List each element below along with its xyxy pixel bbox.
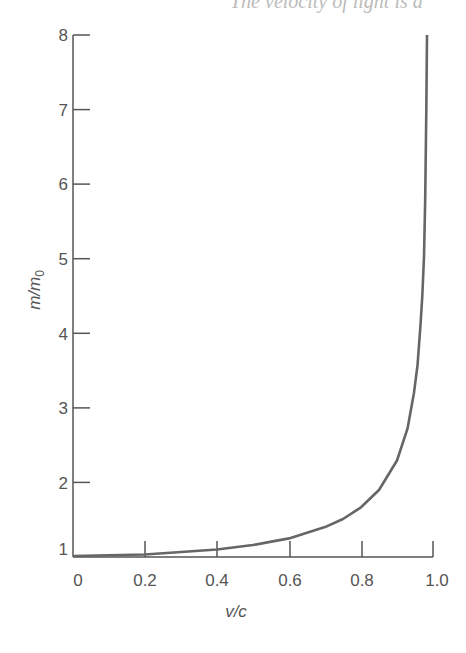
y-tick-label: 1 [59,540,68,559]
x-ticks [145,541,433,557]
chart: 1 2 3 4 5 6 7 8 0 0.2 0.4 0.6 0.8 1.0 v/… [0,0,466,653]
y-tick-label: 7 [59,101,68,120]
curve-line [73,35,427,556]
y-tick-label: 3 [59,399,68,418]
y-tick-label: 4 [59,325,68,344]
x-tick-label: 1.0 [425,571,449,590]
y-tick-labels: 1 2 3 4 5 6 7 8 [59,26,68,559]
y-tick-label: 5 [59,250,68,269]
y-tick-label: 2 [59,474,68,493]
x-tick-labels: 0 0.2 0.4 0.6 0.8 1.0 [73,571,449,590]
y-ticks [73,35,90,482]
y-tick-label: 6 [59,175,68,194]
svg-text:m/m0: m/m0 [25,270,47,310]
y-axis-title-subscript: 0 [33,270,47,277]
y-axis-title: m/m0 [25,270,47,310]
x-tick-label: 0.2 [133,571,157,590]
x-tick-label: 0 [73,571,82,590]
x-axis-title: v/c [225,602,247,621]
x-tick-label: 0.8 [350,571,374,590]
x-tick-label: 0.4 [205,571,229,590]
y-tick-label: 8 [59,26,68,45]
x-tick-label: 0.6 [278,571,302,590]
y-axis-title-main: m/m [25,277,44,310]
